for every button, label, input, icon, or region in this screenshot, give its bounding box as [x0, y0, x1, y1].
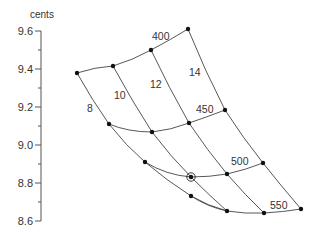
label-450: 450: [196, 103, 214, 115]
y-axis: cents 9.6 9.4 9.2 9.0 8.8 8.6: [18, 9, 54, 227]
label-12: 12: [150, 78, 162, 90]
label-400: 400: [152, 30, 170, 42]
y-axis-unit: cents: [30, 9, 54, 20]
y-tick-8-8: 8.8: [18, 177, 33, 189]
label-14: 14: [189, 66, 201, 78]
label-550: 550: [270, 199, 288, 211]
y-tick-9-6: 9.6: [18, 25, 33, 37]
label-500: 500: [231, 155, 249, 167]
intersection-points: [75, 27, 303, 215]
y-tick-9-0: 9.0: [18, 139, 33, 151]
curve-400: [77, 29, 188, 73]
y-tick-9-4: 9.4: [18, 63, 33, 75]
label-10: 10: [114, 89, 126, 101]
label-8: 8: [87, 102, 93, 114]
curve-14: [188, 29, 301, 209]
y-tick-9-2: 9.2: [18, 101, 33, 113]
chart: cents 9.6 9.4 9.2 9.0 8.8 8.6: [0, 0, 318, 234]
y-tick-8-6: 8.6: [18, 215, 33, 227]
